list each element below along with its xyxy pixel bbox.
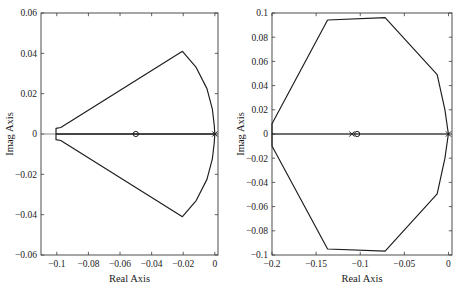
x-tick-label: 0 [446,259,451,269]
plot-group: −0.1−0.08−0.06−0.04−0.020−0.06−0.04−0.02… [4,8,218,284]
y-tick-label: 0.06 [251,57,268,67]
y-tick-label: 0.02 [251,105,268,115]
y-tick-label: −0.1 [251,250,268,260]
x-tick-label: −0.02 [172,259,194,269]
plot-panel-right: −0.2−0.15−0.1−0.050−0.1−0.08−0.06−0.04−0… [229,0,458,298]
x-tick-label: −0.05 [393,259,415,269]
tick-labels: −0.2−0.15−0.1−0.050−0.1−0.08−0.06−0.04−0… [246,8,451,268]
y-tick-label: 0.02 [20,89,37,99]
y-tick-label: 0 [263,129,268,139]
figure-root-locus-pair: −0.1−0.08−0.06−0.04−0.020−0.06−0.04−0.02… [0,0,458,298]
plot-left-canvas: −0.1−0.08−0.06−0.04−0.020−0.06−0.04−0.02… [0,0,229,298]
y-tick-label: 0.1 [256,8,268,18]
y-tick-label: −0.06 [246,202,268,212]
plot-panel-left: −0.1−0.08−0.06−0.04−0.020−0.06−0.04−0.02… [0,0,229,298]
x-tick-label: 0 [212,259,217,269]
data-series-group [56,51,215,216]
tick-labels: −0.1−0.08−0.06−0.04−0.020−0.06−0.04−0.02… [15,8,217,268]
x-tick-label: −0.1 [48,259,65,269]
plot-right-canvas: −0.2−0.15−0.1−0.050−0.1−0.08−0.06−0.04−0… [229,0,458,298]
y-tick-label: −0.04 [246,178,268,188]
y-tick-label: −0.04 [15,210,37,220]
data-series-group [272,18,448,252]
x-tick-label: −0.08 [77,259,99,269]
y-axis-title: Imag Axis [4,112,15,155]
y-tick-label: −0.02 [15,170,37,180]
y-tick-label: −0.02 [246,154,268,164]
x-axis-title: Real Axis [341,273,382,284]
x-tick-label: −0.15 [305,259,327,269]
x-axis-title: Real Axis [109,273,150,284]
x-tick-label: −0.04 [141,259,163,269]
x-tick-label: −0.06 [109,259,131,269]
y-tick-label: −0.06 [15,250,37,260]
y-tick-label: 0.04 [20,49,37,59]
y-tick-label: 0.04 [251,81,268,91]
y-tick-label: 0.06 [20,8,37,18]
y-tick-label: 0 [32,129,37,139]
y-tick-label: 0.08 [251,33,268,43]
y-tick-label: −0.08 [246,226,268,236]
plot-group: −0.2−0.15−0.1−0.050−0.1−0.08−0.06−0.04−0… [235,8,452,284]
y-axis-title: Imag Axis [235,112,246,155]
x-tick-label: −0.1 [352,259,369,269]
